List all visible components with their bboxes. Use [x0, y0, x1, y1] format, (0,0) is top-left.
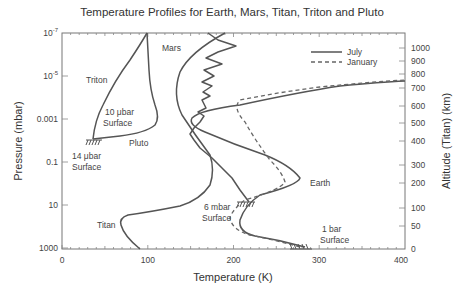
y2-tick-1000: 1000	[411, 43, 430, 53]
y2-ticks	[399, 48, 405, 226]
y2-tick-100: 100	[411, 203, 425, 213]
label-triton: Triton	[86, 75, 108, 85]
label-6mbar: 6 mbar	[204, 202, 231, 212]
y2-tick-800: 800	[411, 69, 425, 79]
y2-tick-500: 500	[411, 118, 425, 128]
legend: July January	[311, 47, 378, 67]
y2-axis-label: Altitude (Titan) (km)	[440, 93, 452, 189]
temperature-profile-chart: Temperature Profiles for Earth, Mars, Ti…	[0, 0, 464, 301]
x-tick-100: 100	[141, 255, 155, 265]
label-14ubar: 14 μbar	[72, 151, 101, 161]
y2-tick-50: 50	[411, 221, 421, 231]
y2-tick-900: 900	[411, 56, 425, 66]
y-tick-1e-7: 10-7	[43, 27, 58, 38]
y2-tick-labels: 1000 900 800 700 600 500 400 300 200 100…	[411, 43, 430, 254]
x-tick-300: 300	[312, 255, 326, 265]
y-tick-0.1: 0.1	[46, 157, 58, 167]
y-tick-10: 10	[49, 200, 59, 210]
label-titan: Titan	[97, 220, 116, 230]
mars-curve	[190, 33, 249, 202]
label-10ubar: 10 μbar	[105, 107, 134, 117]
y2-tick-700: 700	[411, 83, 425, 93]
x-axis-label: Temperature (K)	[193, 271, 272, 283]
mars-surface-hatch	[237, 202, 255, 207]
label-10ubar-surface: Surface	[103, 118, 133, 128]
y2-tick-400: 400	[411, 136, 425, 146]
earth-january-curve	[230, 80, 405, 247]
x-tick-0: 0	[60, 255, 65, 265]
label-1bar: 1 bar	[322, 224, 342, 234]
y2-tick-600: 600	[411, 101, 425, 111]
y2-tick-0: 0	[411, 244, 416, 254]
label-1bar-surface: Surface	[320, 235, 350, 245]
label-pluto: Pluto	[129, 138, 149, 148]
y2-tick-200: 200	[411, 178, 425, 188]
legend-january-label: January	[347, 57, 378, 67]
y-tick-1000: 1000	[39, 243, 58, 253]
pluto-surface-hatch	[86, 140, 102, 145]
label-earth: Earth	[310, 178, 331, 188]
chart-title: Temperature Profiles for Earth, Mars, Ti…	[80, 6, 384, 18]
y-tick-0.001: 0.001	[37, 114, 59, 124]
y-axis-label: Pressure (mbar)	[12, 101, 24, 180]
y-ticks	[62, 76, 68, 248]
legend-july-label: July	[347, 47, 363, 57]
y2-tick-300: 300	[411, 160, 425, 170]
label-mars: Mars	[162, 43, 181, 53]
x-tick-400: 400	[394, 255, 408, 265]
label-14ubar-surface: Surface	[72, 162, 102, 172]
x-tick-200: 200	[226, 255, 240, 265]
label-6mbar-surface: Surface	[202, 213, 232, 223]
y-tick-1e-5: 10-5	[43, 70, 58, 81]
